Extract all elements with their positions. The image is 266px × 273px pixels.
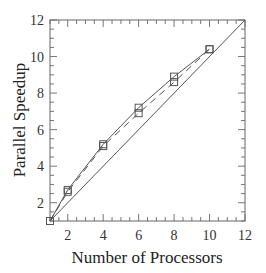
series-line-0 bbox=[50, 49, 210, 221]
x-axis-label: Number of Processors bbox=[71, 248, 222, 267]
data-series bbox=[47, 20, 246, 225]
parallel-speedup-chart: 2468101224681012 Number of Processors Pa… bbox=[0, 0, 266, 273]
y-tick-label: 10 bbox=[30, 50, 44, 65]
series-line-2 bbox=[50, 20, 245, 221]
x-tick-label: 6 bbox=[135, 228, 142, 243]
x-tick-label: 2 bbox=[64, 228, 71, 243]
y-tick-label: 6 bbox=[37, 123, 44, 138]
y-tick-label: 4 bbox=[37, 159, 44, 174]
x-tick-label: 10 bbox=[203, 228, 217, 243]
y-axis-label: Parallel Speedup bbox=[10, 63, 29, 178]
x-tick-label: 4 bbox=[100, 228, 107, 243]
x-tick-label: 8 bbox=[171, 228, 178, 243]
x-tick-label: 12 bbox=[238, 228, 252, 243]
y-tick-label: 2 bbox=[37, 196, 44, 211]
y-tick-label: 12 bbox=[30, 13, 44, 28]
y-tick-label: 8 bbox=[37, 86, 44, 101]
series-line-1 bbox=[50, 49, 210, 221]
